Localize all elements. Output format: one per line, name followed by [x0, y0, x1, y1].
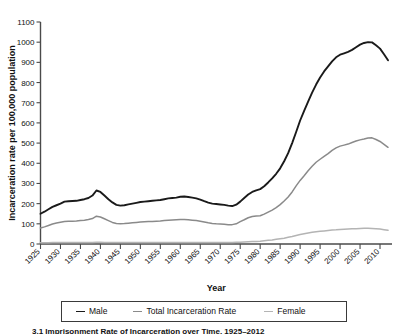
x-tick-label: 1945	[103, 247, 122, 266]
x-tick-label: 1995	[303, 247, 322, 266]
x-tick-label: 2000	[323, 247, 342, 266]
y-tick-label: 700	[21, 99, 35, 108]
y-tick-label: 300	[21, 179, 35, 188]
chart-legend: Male Total Incarceration Rate Female	[61, 301, 347, 322]
x-tick-label: 1955	[143, 247, 162, 266]
y-tick-label: 200	[21, 200, 35, 209]
x-tick-label: 1925	[23, 247, 42, 266]
x-tick-label: 2010	[362, 247, 381, 266]
data-series-group	[41, 42, 389, 243]
x-tick-label: 1965	[183, 247, 202, 266]
legend-label-total-incarceration-rate: Total Incarceration Rate	[146, 307, 236, 316]
y-tick-label: 900	[21, 58, 35, 67]
legend-label-male: Male	[89, 307, 107, 316]
legend-swatch-total-incarceration-rate	[133, 311, 142, 312]
x-tick-label: 1990	[283, 247, 302, 266]
figure-caption: 3.1 Imprisonment Rate of Incarceration o…	[32, 327, 392, 334]
x-axis: 1925193019351940194519501955196019651970…	[23, 244, 392, 266]
y-tick-label: 1100	[17, 18, 35, 27]
legend-item-female: Female	[264, 307, 305, 316]
y-axis-title: Incarceration rate per 100,000 populatio…	[7, 45, 17, 221]
x-tick-label: 1980	[243, 247, 262, 266]
legend-label-female: Female	[277, 307, 305, 316]
y-tick-label: 1000	[17, 38, 35, 47]
x-tick-label: 1930	[43, 247, 62, 266]
x-tick-label: 1940	[83, 247, 102, 266]
y-axis: 010020030040050060070080090010001100	[17, 18, 41, 249]
y-tick-label: 100	[21, 220, 35, 229]
incarceration-rate-chart-figure: 010020030040050060070080090010001100 192…	[0, 0, 409, 334]
legend-item-total-incarceration-rate: Total Incarceration Rate	[133, 307, 236, 316]
x-tick-label: 1950	[123, 247, 142, 266]
legend-item-male: Male	[76, 307, 107, 316]
series-line-total-incarceration-rate	[41, 138, 389, 228]
x-tick-label: 1975	[223, 247, 242, 266]
y-tick-label: 800	[21, 79, 35, 88]
x-tick-label: 1970	[203, 247, 222, 266]
y-tick-label: 400	[21, 159, 35, 168]
series-line-male	[41, 42, 389, 214]
x-tick-label: 1960	[163, 247, 182, 266]
y-tick-label: 600	[21, 119, 35, 128]
chart-plot-area: 010020030040050060070080090010001100 192…	[0, 0, 409, 334]
series-line-female	[41, 228, 389, 243]
x-tick-label: 1985	[263, 247, 282, 266]
legend-swatch-female	[264, 311, 273, 312]
y-tick-label: 500	[21, 139, 35, 148]
x-tick-label: 2005	[343, 247, 362, 266]
x-axis-title: Year	[207, 283, 227, 293]
x-tick-label: 1935	[63, 247, 82, 266]
legend-swatch-male	[76, 311, 85, 312]
